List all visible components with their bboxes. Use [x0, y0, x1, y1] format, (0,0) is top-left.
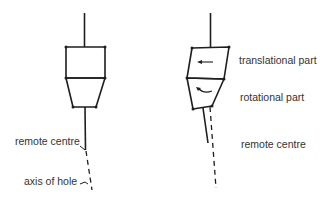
- left-remote-centre-leader: [80, 146, 85, 150]
- right-rotational-block: [187, 78, 224, 109]
- right-translational-block: [187, 47, 229, 79]
- translational-part-label: translational part: [239, 55, 317, 66]
- left-lower-shaft: [85, 107, 86, 150]
- right-lower-shaft: [203, 108, 208, 143]
- left-translational-block: [66, 47, 105, 78]
- axis-of-hole-label: axis of hole: [24, 176, 77, 187]
- right-remote-centre-label: remote centre: [241, 139, 306, 150]
- right-figure: [187, 13, 229, 188]
- left-remote-centre-label: remote centre: [15, 136, 80, 147]
- left-axis-leader: [80, 182, 88, 184]
- rotational-part-label: rotational part: [240, 92, 304, 103]
- right-axis-of-hole: [210, 107, 216, 188]
- left-figure: [66, 13, 105, 190]
- left-axis-of-hole: [86, 151, 92, 190]
- left-rotational-block: [66, 78, 105, 107]
- curved-arrow-icon: [196, 87, 212, 92]
- arrow-left-icon: [197, 60, 213, 64]
